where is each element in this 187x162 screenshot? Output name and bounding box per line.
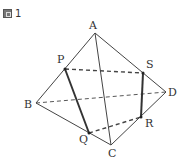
point-S <box>142 72 145 75</box>
label-B: B <box>24 98 32 111</box>
point-P <box>64 68 67 71</box>
label-C: C <box>108 147 116 160</box>
edge-BC <box>36 103 111 145</box>
edge-BD <box>36 92 166 103</box>
label-S: S <box>146 58 154 71</box>
bold-edges <box>65 69 143 133</box>
point-R <box>140 116 143 119</box>
edge-QR <box>89 117 141 133</box>
edge-PS <box>65 69 143 73</box>
label-R: R <box>145 117 154 130</box>
label-Q: Q <box>79 133 88 146</box>
label-P: P <box>57 53 65 66</box>
tetrahedron-diagram: A B C D P Q R S <box>0 0 187 162</box>
edge-SR <box>141 73 143 117</box>
label-A: A <box>88 19 98 32</box>
edge-PQ <box>65 69 89 133</box>
label-D: D <box>168 86 177 99</box>
edge-AD <box>95 33 166 92</box>
